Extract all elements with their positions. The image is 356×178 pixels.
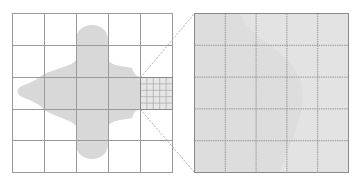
magnified-cell bbox=[195, 14, 349, 173]
figure-canvas bbox=[0, 0, 356, 178]
refined-cell-fine-grid bbox=[141, 78, 173, 110]
grid-refinement-figure bbox=[0, 0, 356, 178]
